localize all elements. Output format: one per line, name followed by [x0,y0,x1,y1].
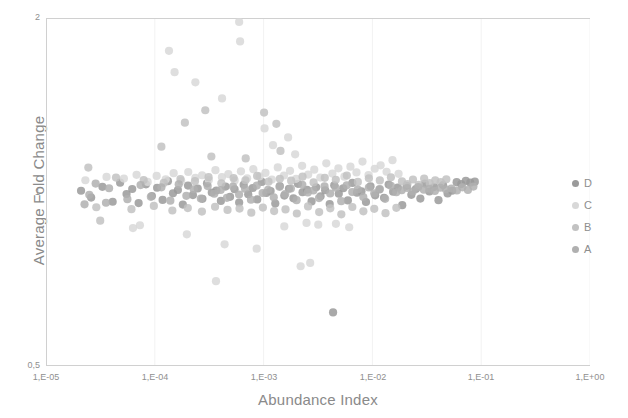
y-tick-label-1: 1 [6,187,40,197]
data-point [159,196,167,204]
data-point [150,202,158,210]
data-point [276,175,284,183]
data-point [394,170,402,178]
data-point [343,171,351,179]
data-point [302,219,310,227]
data-point [469,182,477,190]
data-point [207,152,215,160]
data-point [157,183,165,191]
data-point [182,192,190,200]
data-point [211,203,219,211]
data-point [284,133,292,141]
data-point [442,175,450,183]
data-point [321,174,329,182]
data-point [280,222,288,230]
data-point [220,240,228,248]
data-point [264,186,272,194]
data-point [127,205,135,213]
x-tick-label-1e-01: 1,E-01 [446,372,516,382]
data-point [287,177,295,185]
data-point [84,164,92,172]
data-point [304,202,312,210]
data-point [235,190,243,198]
legend-marker-icon [572,180,579,187]
data-point [377,161,385,169]
data-point [332,220,340,228]
data-point [147,193,155,201]
data-point [204,182,212,190]
data-point [80,200,88,208]
data-point [217,186,225,194]
data-point [229,182,237,190]
data-point [212,277,220,285]
data-point [286,167,294,175]
data-point [135,199,143,207]
data-point [275,183,283,191]
legend-item-A[interactable]: A [572,238,624,260]
data-point [292,196,300,204]
data-point [128,185,136,193]
data-point [359,193,367,201]
data-point [235,18,243,26]
legend-item-B[interactable]: B [572,216,624,238]
data-point [218,94,226,102]
data-point [352,168,360,176]
data-point [269,141,277,149]
data-point [298,173,306,181]
legend-marker-icon [572,202,579,209]
data-point [387,182,395,190]
data-point [281,205,289,213]
data-point [381,209,389,217]
legend-label: C [584,200,592,211]
data-point [253,181,261,189]
legend-label: A [584,244,591,255]
data-point [329,308,337,316]
data-point [241,176,249,184]
data-point [358,157,366,165]
data-point [376,185,384,193]
data-point [306,259,314,267]
data-point [274,163,282,171]
data-point [242,154,250,162]
data-point [201,106,209,114]
data-point [123,195,131,203]
scatter-chart: Average Fold Change Abundance Index 2 1 … [0,0,628,418]
data-points-layer [77,18,479,317]
data-point [237,167,245,175]
data-point [320,182,328,190]
data-point [315,194,323,202]
data-point [345,223,353,231]
data-point [270,193,278,201]
legend-item-C[interactable]: C [572,194,624,216]
data-point [376,176,384,184]
data-point [175,180,183,188]
y-tick-label-0-5: 0,5 [6,360,40,370]
data-point [236,37,244,45]
legend-item-D[interactable]: D [572,172,624,194]
data-point [170,68,178,76]
data-point [223,194,231,202]
x-tick-label-1e-05: 1,E-05 [11,372,81,382]
data-point [235,205,243,213]
data-point [170,169,178,177]
data-point [112,174,120,182]
data-point [298,181,306,189]
data-point [92,203,100,211]
data-point [332,176,340,184]
data-point [260,109,268,117]
data-point [309,186,317,194]
plot-canvas [46,18,590,366]
data-point [184,168,192,176]
data-point [381,195,389,203]
data-point [165,47,173,55]
data-point [168,206,176,214]
data-point [105,184,113,192]
data-point [211,166,219,174]
data-point [359,207,367,215]
x-tick-label-1e-02: 1,E-02 [338,372,408,382]
data-point [348,203,356,211]
x-tick-label-1e-03: 1,E-03 [229,372,299,382]
x-tick-label-1e-04: 1,E-04 [120,372,190,382]
plot-area [46,18,590,366]
data-point [315,208,323,216]
